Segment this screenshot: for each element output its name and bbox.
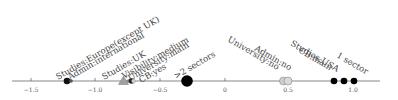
- point-studies-usa: [331, 78, 338, 85]
- point-2-sectors: [181, 75, 193, 87]
- tick-label: −1.0: [88, 86, 103, 93]
- tick-label: 0: [223, 86, 227, 93]
- tick-label: −0.5: [153, 86, 168, 93]
- label-1-sector: 1 sector: [335, 50, 371, 77]
- tick-label: −1.5: [24, 86, 39, 93]
- point-cb-main: [341, 78, 348, 85]
- point-1-sector: [351, 78, 358, 85]
- point-cb-yes: [132, 79, 136, 83]
- point-admin-no: [284, 77, 292, 85]
- chart: −1.5 −1.0 −0.5 0 0.5 1.0 Studies:Europe(…: [0, 0, 398, 100]
- tick-label: 1.0: [348, 86, 358, 93]
- x-tick-labels: −1.5 −1.0 −0.5 0 0.5 1.0: [24, 86, 358, 93]
- point-admin-international: [69, 79, 73, 83]
- tick-label: 0.5: [283, 86, 293, 93]
